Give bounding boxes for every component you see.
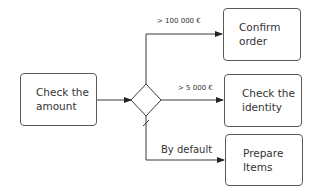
node-prepare-items[interactable]: Prepare Items xyxy=(225,134,303,186)
edge-label-over-5000: > 5 000 € xyxy=(178,84,213,92)
node-label: Confirm order xyxy=(239,20,280,48)
node-check-amount[interactable]: Check the amount xyxy=(20,73,97,126)
node-label: Check the amount xyxy=(36,85,89,113)
decision-gateway[interactable] xyxy=(131,84,161,116)
edge-to-confirm-order xyxy=(146,34,222,84)
edge-label-over-100000: > 100 000 € xyxy=(157,17,201,25)
node-confirm-order[interactable]: Confirm order xyxy=(223,8,301,61)
node-label: Check the identity xyxy=(242,86,295,114)
edge-label-by-default: By default xyxy=(161,144,212,155)
node-check-identity[interactable]: Check the identity xyxy=(224,74,302,127)
node-label: Prepare Items xyxy=(243,146,283,174)
